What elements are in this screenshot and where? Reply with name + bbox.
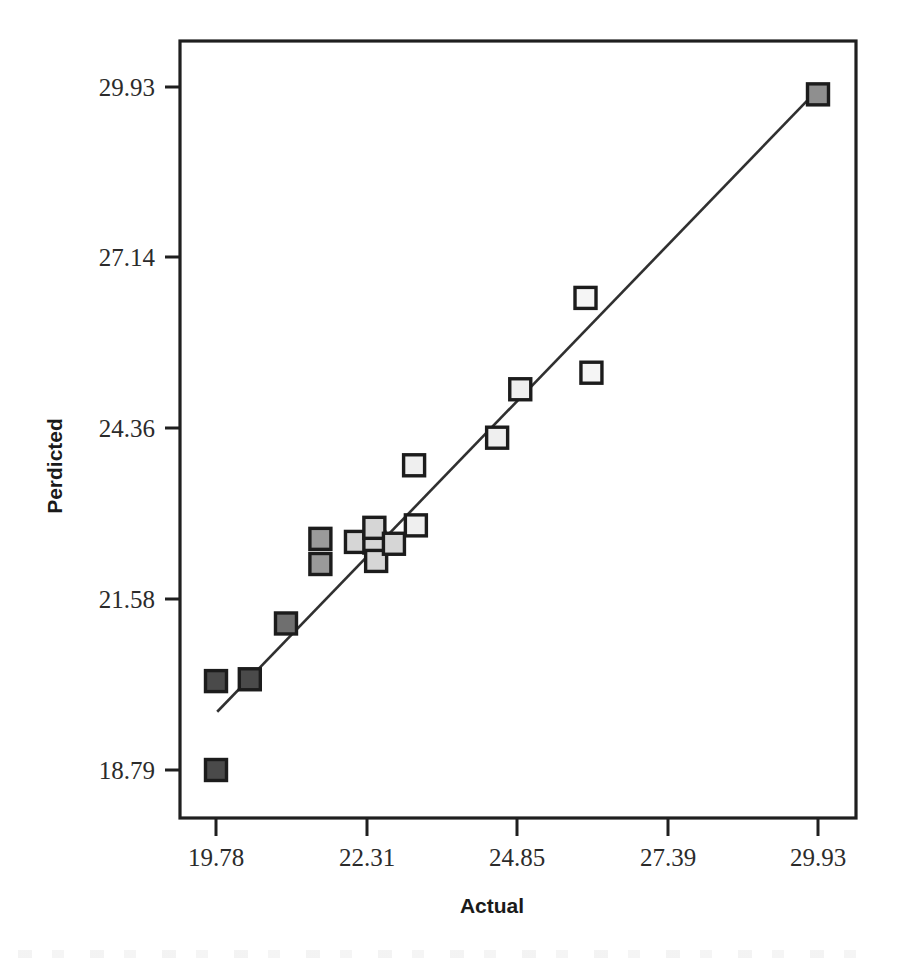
y-tick-label-24-36: 24.36 [99, 415, 155, 442]
y-tick-label-21-58: 21.58 [99, 586, 155, 613]
data-point-marker [575, 287, 596, 308]
plot-frame [180, 41, 856, 818]
x-axis-title: Actual [460, 894, 524, 917]
data-point-marker [364, 517, 385, 538]
y-tick-label-18-79: 18.79 [99, 757, 155, 784]
data-point-markers [206, 84, 829, 781]
y-axis-title: Perdicted [43, 418, 66, 514]
data-point-marker [510, 379, 531, 400]
x-tick-label-29-93: 29.93 [790, 844, 846, 871]
scatter-plot-figure: 29.93 27.14 24.36 21.58 18.79 19.78 22.3… [0, 0, 897, 968]
y-axis-tick-labels: 29.93 27.14 24.36 21.58 18.79 [99, 74, 156, 784]
x-tick-label-24-85: 24.85 [489, 844, 545, 871]
data-point-marker [808, 84, 829, 105]
y-tick-label-27-14: 27.14 [99, 244, 156, 271]
data-point-marker [310, 553, 331, 574]
data-point-marker [310, 528, 331, 549]
data-point-marker [275, 613, 296, 634]
data-point-marker [405, 515, 426, 536]
data-point-marker [581, 362, 602, 383]
data-point-marker [206, 760, 227, 781]
y-tick-label-29-93: 29.93 [99, 74, 155, 101]
y-axis-ticks [165, 87, 180, 770]
data-point-marker [383, 533, 404, 554]
data-point-marker [206, 671, 227, 692]
x-axis-tick-labels: 19.78 22.31 24.85 27.39 29.93 [188, 844, 846, 871]
data-point-marker [487, 427, 508, 448]
plot-canvas: 29.93 27.14 24.36 21.58 18.79 19.78 22.3… [0, 0, 897, 968]
scan-artifact [18, 950, 878, 958]
data-point-marker [404, 455, 425, 476]
x-tick-label-19-78: 19.78 [188, 844, 244, 871]
x-axis-ticks [216, 818, 818, 836]
data-point-marker [239, 669, 260, 690]
x-tick-label-27-39: 27.39 [640, 844, 696, 871]
x-tick-label-22-31: 22.31 [339, 844, 395, 871]
